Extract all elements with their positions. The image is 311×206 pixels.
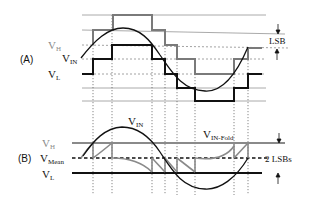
vl-label-b: VL (42, 168, 54, 182)
vh-label-a: VH (48, 39, 61, 53)
panel-a-tag: (A) (20, 54, 33, 65)
vin-label-b: VIN (128, 115, 143, 129)
panel-b: (B) VH VMean VL VIN VIN-Fold 2 LSBs (18, 115, 292, 189)
vl-label-a: VL (48, 68, 60, 82)
lsb-label: LSB (269, 36, 286, 46)
panel-b-tag: (B) (18, 153, 31, 164)
two-lsb-label: 2 LSBs (265, 154, 292, 164)
vh-label-b: VH (42, 137, 55, 151)
vmean-label-b: VMean (40, 152, 64, 166)
vin-fold-label: VIN-Fold (203, 128, 234, 142)
panel-a: (A) VH VIN VL LSB (20, 15, 290, 195)
vin-label-a: VIN (62, 52, 77, 66)
folding-adc-diagram: (A) VH VIN VL LSB (0, 0, 311, 206)
